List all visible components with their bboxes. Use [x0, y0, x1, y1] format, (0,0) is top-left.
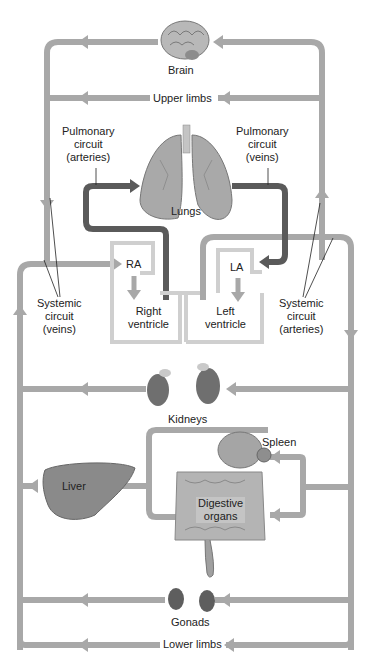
- label-left-ventricle: Leftventricle: [205, 305, 246, 331]
- label-pulmonary-arteries: Pulmonarycircuit(arteries): [62, 125, 115, 164]
- label-ra: RA: [126, 258, 141, 271]
- label-lungs: Lungs: [171, 205, 201, 218]
- label-systemic-arteries: Systemiccircuit(arteries): [279, 297, 324, 336]
- label-digestive-organs: Digestiveorgans: [196, 497, 245, 523]
- gonads-icon: [168, 588, 215, 612]
- label-right-ventricle: Rightventricle: [128, 305, 169, 331]
- label-upper-limbs: Upper limbs: [151, 92, 214, 105]
- label-brain: Brain: [168, 64, 194, 77]
- label-gonads: Gonads: [171, 616, 210, 629]
- label-kidneys: Kidneys: [168, 413, 207, 426]
- label-systemic-veins: Systemiccircuit(veins): [37, 297, 82, 336]
- label-la: LA: [230, 261, 243, 274]
- brain-icon: [161, 21, 209, 60]
- label-pulmonary-veins: Pulmonarycircuit(veins): [236, 125, 289, 164]
- label-liver: Liver: [62, 480, 86, 493]
- liver-icon: [43, 463, 135, 519]
- kidneys-icon: [147, 363, 220, 406]
- label-spleen: Spleen: [262, 436, 296, 449]
- intestines-icon: [175, 472, 265, 577]
- label-lower-limbs: Lower limbs: [161, 638, 224, 651]
